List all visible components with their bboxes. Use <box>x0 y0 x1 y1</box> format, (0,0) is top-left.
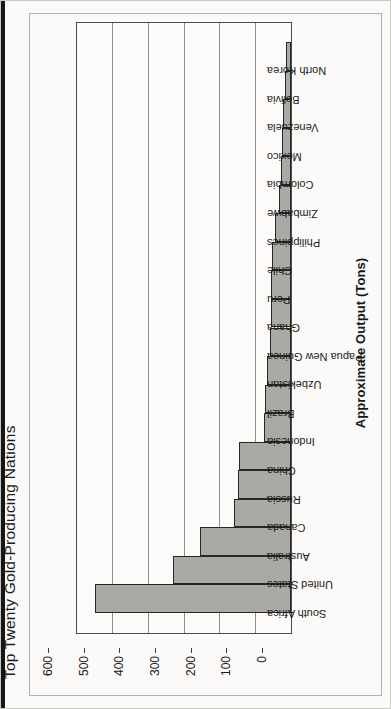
axis-tick <box>155 648 156 653</box>
category-label: Brazil <box>267 408 363 420</box>
value-axis-title: Approximate Output (Tons) <box>353 193 368 493</box>
axis-tick-label: 200 <box>184 656 198 695</box>
axis-tick <box>84 648 85 653</box>
axis-tick-label: 400 <box>112 656 126 695</box>
gridline <box>184 23 185 633</box>
category-label: China <box>267 465 363 477</box>
category-label: Australia <box>267 551 363 563</box>
axis-tick-label: 600 <box>41 656 55 695</box>
category-label: Zimbabwe <box>267 208 363 220</box>
plot-area <box>76 22 292 634</box>
category-label: United States <box>267 579 363 591</box>
chart-frame: 0100200300400500600 South AfricaUnited S… <box>29 13 382 696</box>
axis-tick-label: 500 <box>77 656 91 695</box>
category-label: Uzbekistan <box>267 379 363 391</box>
category-label: South Africa <box>267 608 363 620</box>
category-label: Russia <box>267 494 363 506</box>
axis-tick-label: 300 <box>148 656 162 695</box>
category-label: North Korea <box>267 65 363 77</box>
axis-tick-label: 100 <box>219 656 233 695</box>
category-label: Peru <box>267 294 363 306</box>
rotated-chart-canvas: Top Twenty Gold-Producing Nations 010020… <box>1 1 391 709</box>
bar <box>95 584 291 613</box>
category-label: Indonesia <box>267 436 363 448</box>
axis-tick <box>48 648 49 653</box>
scan-edge-strip <box>1 1 5 709</box>
gridline <box>112 23 113 633</box>
category-label: Philippines <box>267 237 363 249</box>
scanned-page: Top Twenty Gold-Producing Nations 010020… <box>0 0 391 709</box>
axis-tick <box>226 648 227 653</box>
category-label: Papua New Guinea <box>267 351 363 363</box>
category-label: Colombia <box>267 179 363 191</box>
category-label: Bolivia <box>267 94 363 106</box>
category-label: Chile <box>267 265 363 277</box>
category-label: Mexico <box>267 151 363 163</box>
axis-tick <box>119 648 120 653</box>
category-label: Canada <box>267 522 363 534</box>
axis-tick-label: 0 <box>255 656 269 695</box>
axis-tick <box>262 648 263 653</box>
category-label: Venezuela <box>267 122 363 134</box>
axis-tick <box>191 648 192 653</box>
gridline <box>148 23 149 633</box>
category-label: Ghana <box>267 322 363 334</box>
